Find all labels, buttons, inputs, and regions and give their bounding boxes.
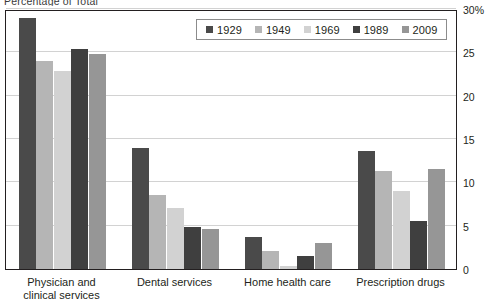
bar: [358, 151, 375, 269]
legend-swatch-icon: [255, 26, 262, 33]
legend-swatch-icon: [206, 26, 213, 33]
legend-item[interactable]: 1929: [206, 24, 242, 36]
legend-label: 1969: [315, 24, 340, 36]
y-axis-tick-label: 0: [463, 265, 469, 275]
y-axis-tick-label: 20: [463, 92, 475, 102]
y-axis-tick-label: 30%: [463, 5, 484, 15]
legend-item[interactable]: 1969: [304, 24, 340, 36]
bar: [167, 208, 184, 269]
legend-label: 2009: [413, 24, 438, 36]
x-axis-category-label: Home health care: [231, 276, 344, 289]
bar: [149, 195, 166, 269]
legend-item[interactable]: 1989: [353, 24, 389, 36]
gridline: [6, 8, 456, 9]
x-axis-category-label: Dental services: [118, 276, 231, 289]
y-axis-tick-label: 5: [463, 222, 469, 232]
bar: [184, 227, 201, 269]
bar: [393, 191, 410, 269]
chart-legend: 19291949196919892009: [196, 19, 447, 40]
plot-area: [5, 10, 457, 270]
y-axis-tick-label: 25: [463, 48, 475, 58]
legend-label: 1989: [364, 24, 389, 36]
bar: [315, 243, 332, 269]
bar: [202, 229, 219, 269]
legend-label: 1929: [217, 24, 242, 36]
y-axis-tick-label: 10: [463, 178, 475, 188]
bar: [54, 71, 71, 269]
legend-item[interactable]: 2009: [402, 24, 438, 36]
bar: [297, 256, 314, 269]
bar: [410, 221, 427, 269]
bar: [428, 169, 445, 269]
bar: [262, 251, 279, 269]
legend-label: 1949: [266, 24, 291, 36]
y-axis-tick-label: 15: [463, 135, 475, 145]
legend-swatch-icon: [353, 26, 360, 33]
x-axis-category-label: Prescription drugs: [344, 276, 457, 289]
legend-swatch-icon: [402, 26, 409, 33]
legend-item[interactable]: 1949: [255, 24, 291, 36]
bar: [280, 266, 297, 269]
bar: [19, 18, 36, 269]
y-axis: 051015202530%: [461, 0, 490, 304]
legend-swatch-icon: [304, 26, 311, 33]
chart-title: Percentage of Total: [4, 0, 98, 6]
bars-layer: [6, 11, 456, 269]
bar: [245, 237, 262, 269]
bar: [132, 148, 149, 269]
bar: [89, 54, 106, 269]
bar: [36, 61, 53, 269]
bar-chart-figure: Percentage of Total 051015202530% Physic…: [0, 0, 490, 304]
bar: [71, 49, 88, 269]
x-axis: Physician and clinical servicesDental se…: [5, 276, 457, 304]
bar: [375, 171, 392, 269]
x-axis-category-label: Physician and clinical services: [5, 276, 118, 301]
